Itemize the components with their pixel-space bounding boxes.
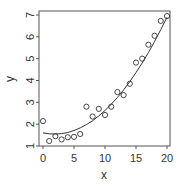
- data-point: [121, 93, 126, 98]
- data-point: [59, 137, 64, 142]
- plot-frame: [39, 11, 170, 146]
- y-tick-label: 4: [24, 77, 36, 83]
- y-tick-label: 3: [24, 99, 36, 105]
- data-point: [115, 89, 120, 94]
- data-point: [140, 56, 145, 61]
- y-tick-label: 6: [24, 34, 36, 40]
- y-tick-label: 7: [24, 12, 36, 18]
- y-tick-label: 1: [24, 143, 36, 149]
- data-point: [78, 131, 83, 136]
- x-tick-label: 0: [40, 152, 46, 164]
- x-axis: 05101520: [40, 146, 173, 164]
- data-point: [84, 104, 89, 109]
- data-point: [96, 106, 101, 111]
- data-point: [47, 138, 52, 143]
- data-point: [133, 60, 138, 65]
- y-tick-label: 5: [24, 56, 36, 62]
- y-tick-label: 2: [24, 121, 36, 127]
- data-point: [146, 42, 151, 47]
- y-axis-label: y: [3, 76, 17, 82]
- data-point: [71, 134, 76, 139]
- fit-curve: [43, 17, 167, 134]
- x-tick-label: 10: [99, 152, 111, 164]
- data-point: [158, 18, 163, 23]
- x-tick-label: 5: [71, 152, 77, 164]
- scatter-chart: 05101520 1234567 x y: [0, 0, 182, 187]
- x-tick-label: 15: [130, 152, 142, 164]
- data-points: [40, 13, 169, 143]
- data-point: [152, 33, 157, 38]
- data-point: [90, 114, 95, 119]
- x-tick-label: 20: [161, 152, 173, 164]
- y-axis: 1234567: [24, 12, 39, 149]
- data-point: [40, 119, 45, 124]
- data-point: [102, 112, 107, 117]
- data-point: [65, 135, 70, 140]
- x-axis-label: x: [101, 168, 107, 182]
